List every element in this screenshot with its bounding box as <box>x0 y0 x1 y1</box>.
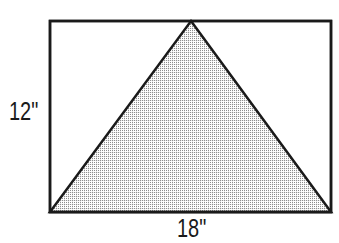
width-dimension-label: 18" <box>177 216 206 241</box>
geometry-canvas <box>0 0 339 243</box>
geometry-figure: 12" 18" <box>0 0 339 243</box>
height-dimension-label: 12" <box>9 99 38 124</box>
